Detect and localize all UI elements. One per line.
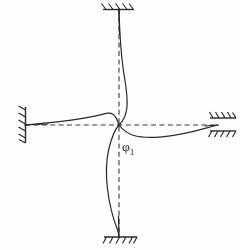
support-bottom <box>103 237 137 244</box>
deflected-member-right <box>119 125 218 137</box>
rotation-angle-subscript: 1 <box>130 147 135 157</box>
deflected-shape-group <box>25 9 218 237</box>
support-top-hatching <box>102 4 134 10</box>
structural-diagram-figure: φ1 <box>0 0 240 250</box>
rotation-angle-label: φ1 <box>122 140 134 157</box>
support-right-hatching-upper <box>210 112 237 118</box>
deflected-member-bottom <box>106 125 119 237</box>
support-bottom-hatching <box>103 237 137 244</box>
rotation-angle-symbol: φ <box>122 139 130 154</box>
rigid-joint-node <box>117 123 120 126</box>
support-top <box>102 4 135 10</box>
support-right-hatching-lower <box>209 131 237 137</box>
deflected-member-top <box>119 9 127 125</box>
support-left <box>19 106 26 143</box>
diagram-canvas <box>0 0 240 250</box>
deflected-member-left <box>25 113 119 125</box>
support-left-hatching <box>19 106 26 143</box>
